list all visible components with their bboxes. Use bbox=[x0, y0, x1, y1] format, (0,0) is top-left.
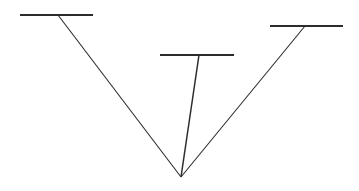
figure-background bbox=[0, 0, 359, 191]
converging-lines-figure bbox=[0, 0, 359, 191]
